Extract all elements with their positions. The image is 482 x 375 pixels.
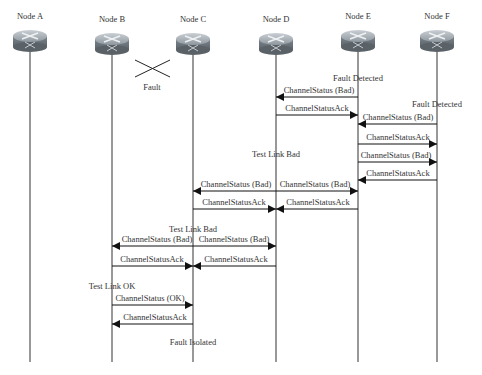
message-arrow: ChannelStatus (Bad) — [112, 234, 193, 246]
message-arrow: ChannelStatus (Bad) — [358, 112, 437, 124]
node-label: Node F — [424, 11, 450, 21]
router-icon — [341, 30, 375, 52]
message-arrow: ChannelStatusAck — [276, 103, 358, 115]
svg-text:ChannelStatusAck: ChannelStatusAck — [123, 312, 187, 322]
router-icon — [176, 33, 210, 55]
note-fault-detected-f: Fault Detected — [412, 99, 463, 109]
message-arrow: ChannelStatusAck — [112, 254, 193, 266]
message-arrow: ChannelStatus (OK) — [112, 293, 193, 305]
message-arrow: ChannelStatusAck — [276, 197, 358, 209]
svg-text:ChannelStatus (Bad): ChannelStatus (Bad) — [122, 234, 193, 244]
node-label: Node C — [180, 14, 207, 24]
message-arrow: ChannelStatus (Bad) — [276, 179, 358, 191]
svg-text:ChannelStatus (Bad): ChannelStatus (Bad) — [363, 112, 434, 122]
note-test-link-bad-c: Test Link Bad — [169, 224, 218, 234]
note-test-link-ok-b: Test Link OK — [89, 281, 136, 291]
svg-text:ChannelStatus (OK): ChannelStatus (OK) — [115, 293, 184, 303]
svg-text:ChannelStatus (Bad): ChannelStatus (Bad) — [284, 85, 355, 95]
svg-text:ChannelStatus (Bad): ChannelStatus (Bad) — [201, 179, 272, 189]
svg-text:ChannelStatusAck: ChannelStatusAck — [120, 254, 184, 264]
fault-marker: Fault — [135, 60, 170, 92]
message-arrow: ChannelStatusAck — [193, 197, 276, 209]
message-arrow: ChannelStatusAck — [112, 312, 193, 324]
node-label: Node E — [345, 11, 371, 21]
message-arrow: ChannelStatus (Bad) — [358, 150, 437, 162]
note-fault-isolated: Fault Isolated — [170, 337, 217, 347]
svg-text:ChannelStatusAck: ChannelStatusAck — [366, 132, 430, 142]
node-a: Node A — [13, 11, 47, 362]
svg-text:ChannelStatusAck: ChannelStatusAck — [286, 197, 350, 207]
node-label: Node A — [17, 11, 44, 21]
router-icon — [13, 30, 47, 52]
svg-text:ChannelStatus (Bad): ChannelStatus (Bad) — [280, 179, 351, 189]
sequence-diagram: Node A Node B Node C Node D Node E Node … — [0, 0, 482, 375]
message-arrow: ChannelStatusAck — [193, 254, 276, 266]
node-label: Node D — [263, 14, 290, 24]
svg-text:ChannelStatusAck: ChannelStatusAck — [366, 168, 430, 178]
message-arrow: ChannelStatusAck — [358, 168, 437, 180]
router-icon — [420, 30, 454, 52]
router-icon — [259, 33, 293, 55]
note-fault-detected-e: Fault Detected — [333, 73, 384, 83]
svg-text:ChannelStatusAck: ChannelStatusAck — [204, 254, 268, 264]
message-arrow: ChannelStatus (Bad) — [193, 234, 276, 246]
svg-text:ChannelStatusAck: ChannelStatusAck — [285, 103, 349, 113]
svg-text:ChannelStatus (Bad): ChannelStatus (Bad) — [199, 234, 270, 244]
svg-text:ChannelStatus (Bad): ChannelStatus (Bad) — [361, 150, 432, 160]
fault-label: Fault — [143, 82, 161, 92]
message-arrow: ChannelStatusAck — [358, 132, 437, 144]
router-icon — [95, 33, 129, 55]
message-arrow: ChannelStatus (Bad) — [276, 85, 358, 97]
node-f: Node F — [420, 11, 454, 362]
note-test-link-bad-d: Test Link Bad — [252, 149, 301, 159]
node-label: Node B — [99, 14, 126, 24]
node-b: Node B — [95, 14, 129, 362]
message-arrow: ChannelStatus (Bad) — [193, 179, 276, 191]
svg-text:ChannelStatusAck: ChannelStatusAck — [202, 197, 266, 207]
